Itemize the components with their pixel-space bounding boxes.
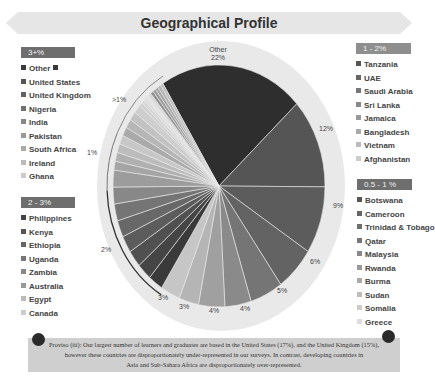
pin-left-icon xyxy=(32,333,45,346)
legend-swatch-icon xyxy=(356,115,361,120)
legend-label: Tanzania xyxy=(364,60,398,69)
legend-label: Sudan xyxy=(365,291,389,300)
legend-header: 3+% xyxy=(21,47,75,58)
legend-item: Jamaica xyxy=(356,112,411,126)
legend-label: Other xyxy=(29,64,50,73)
legend-swatch-icon xyxy=(357,197,362,202)
legend-label: Uganda xyxy=(29,255,58,264)
legend-label: Rwanda xyxy=(365,264,396,273)
legend-label: Egypt xyxy=(29,295,51,304)
legend-swatch-icon xyxy=(21,256,26,261)
legend-label: Somalia xyxy=(365,304,396,313)
legend-swatch-icon xyxy=(356,75,361,80)
legend-swatch-icon xyxy=(21,310,26,315)
note-line-3: Asia and Sub-Sahara Africa are dispropor… xyxy=(28,360,400,370)
legend-2-3: 2 - 3% PhilippinesKenyaEthiopiaUgandaZam… xyxy=(21,197,75,320)
legend-label: Ethiopia xyxy=(29,241,61,250)
legend-swatch-icon xyxy=(357,224,362,229)
legend-swatch-icon xyxy=(356,129,361,134)
legend-item: Ethiopia xyxy=(21,239,75,253)
legend-swatch-icon xyxy=(357,211,362,216)
legend-swatch-icon xyxy=(53,65,58,70)
legend-swatch-icon xyxy=(21,229,26,234)
pin-right-icon xyxy=(382,330,395,343)
legend-swatch-icon xyxy=(356,156,361,161)
legend-swatch-icon xyxy=(357,251,362,256)
legend-label: United Kingdom xyxy=(29,91,91,100)
legend-label: Malaysia xyxy=(365,250,398,259)
legend-item: Afghanistan xyxy=(356,153,411,167)
slice-label-4a: 4% xyxy=(209,307,219,314)
group-label-1pct: 1% xyxy=(87,149,97,156)
legend-swatch-icon xyxy=(357,305,362,310)
other-label-name: Other xyxy=(193,46,243,54)
legend-item: Ireland xyxy=(21,157,75,171)
legend-item: Tanzania xyxy=(356,58,411,72)
legend-label: Trinidad & Tobago xyxy=(365,223,435,232)
legend-label: Zambia xyxy=(29,268,57,277)
legend-swatch-icon xyxy=(357,265,362,270)
legend-label: UAE xyxy=(364,74,381,83)
legend-item: Bangladesh xyxy=(356,126,411,140)
slice-label-3a: 3% xyxy=(158,294,168,301)
group-label-2pct: 2% xyxy=(101,246,111,253)
legend-item: Kenya xyxy=(21,226,75,240)
legend-swatch-icon xyxy=(21,283,26,288)
legend-item: Burma xyxy=(357,275,412,289)
legend-label: Jamaica xyxy=(364,114,396,123)
legend-item: South Africa xyxy=(21,143,75,157)
legend-swatch-icon xyxy=(21,160,26,165)
legend-item: United Kingdom xyxy=(21,89,75,103)
legend-item: Sri Lanka xyxy=(356,99,411,113)
legend-swatch-icon xyxy=(21,92,26,97)
legend-label: Ireland xyxy=(29,159,55,168)
legend-header: 0.5 - 1 % xyxy=(357,179,412,190)
legend-item: United States xyxy=(21,76,75,90)
legend-label: Qatar xyxy=(365,237,386,246)
slice-label-6: 6% xyxy=(310,258,320,265)
legend-item: Rwanda xyxy=(357,262,412,276)
legend-3plus: 3+% OtherUnited StatesUnited KingdomNige… xyxy=(21,47,75,184)
legend-label: South Africa xyxy=(29,145,76,154)
legend-label: Pakistan xyxy=(29,132,62,141)
legend-swatch-icon xyxy=(21,296,26,301)
legend-swatch-icon xyxy=(21,65,26,70)
slice-label-9: 9% xyxy=(333,202,343,209)
legend-label: Sri Lanka xyxy=(364,101,400,110)
legend-swatch-icon xyxy=(357,319,362,324)
legend-item: Vietnam xyxy=(356,139,411,153)
legend-item: Canada xyxy=(21,307,75,321)
legend-1-2: 1 - 2% TanzaniaUAESaudi ArabiaSri LankaJ… xyxy=(356,43,411,166)
legend-item: Uganda xyxy=(21,253,75,267)
legend-item: Somalia xyxy=(357,302,412,316)
legend-header: 2 - 3% xyxy=(21,197,75,208)
legend-swatch-icon xyxy=(21,146,26,151)
legend-item: Other xyxy=(21,62,75,76)
legend-item: Pakistan xyxy=(21,130,75,144)
legend-item: Qatar xyxy=(357,235,412,249)
note-line-2: however these countries are disproportio… xyxy=(28,350,400,360)
other-label-pct: 22% xyxy=(193,54,243,62)
legend-item: Saudi Arabia xyxy=(356,85,411,99)
legend-item: Trinidad & Tobago xyxy=(357,221,412,235)
legend-swatch-icon xyxy=(357,292,362,297)
legend-item: Malaysia xyxy=(357,248,412,262)
legend-item: Greece xyxy=(357,316,412,330)
legend-swatch-icon xyxy=(21,215,26,220)
legend-label: Burma xyxy=(365,277,390,286)
legend-item: Philippines xyxy=(21,212,75,226)
legend-label: Australia xyxy=(29,282,63,291)
legend-item: Nigeria xyxy=(21,103,75,117)
legend-swatch-icon xyxy=(21,269,26,274)
legend-label: India xyxy=(29,118,48,127)
legend-label: Kenya xyxy=(29,228,53,237)
legend-item: Egypt xyxy=(21,293,75,307)
legend-label: Philippines xyxy=(29,214,72,223)
legend-item: Sudan xyxy=(357,289,412,303)
legend-item: UAE xyxy=(356,72,411,86)
legend-swatch-icon xyxy=(357,238,362,243)
legend-label: Botswana xyxy=(365,196,403,205)
legend-swatch-icon xyxy=(357,278,362,283)
legend-label: Ghana xyxy=(29,172,54,181)
slice-label-4b: 4% xyxy=(240,305,250,312)
